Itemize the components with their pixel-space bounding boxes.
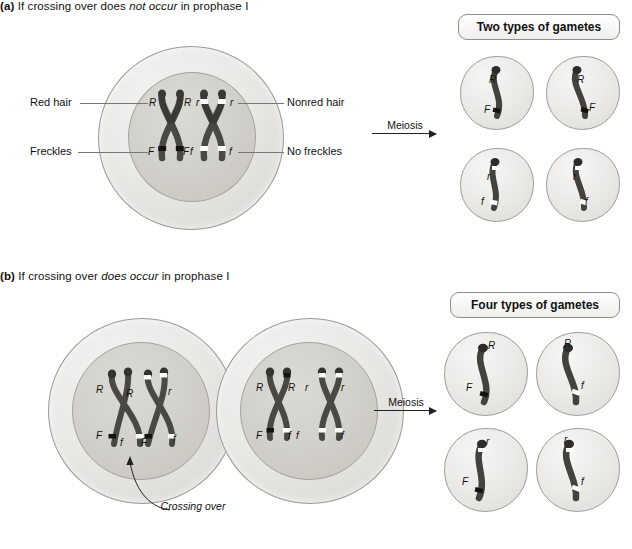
- allele-label: f: [173, 433, 176, 444]
- meiosis-arrow-a: Meiosis: [372, 119, 438, 134]
- panel-a-heading-post: in prophase I: [177, 0, 248, 12]
- panel-b-heading-emphasis: does occur: [101, 270, 158, 282]
- panel-b-heading: (b) If crossing over does occur in proph…: [0, 270, 632, 282]
- gamete-allele-top: r: [564, 434, 567, 445]
- allele-label: F: [141, 437, 147, 448]
- label-nonred-hair: Nonred hair: [287, 96, 344, 108]
- gamete-allele-top: r: [573, 171, 576, 182]
- gamete-allele-bottom: f: [581, 380, 584, 391]
- arrow-line: [372, 133, 436, 134]
- gamete-chromosome: [566, 156, 596, 214]
- allele-label: f: [296, 430, 299, 441]
- allele-label: r: [341, 382, 344, 393]
- panel-b-heading-label: (b): [0, 270, 15, 282]
- gamete-chromosome: [481, 156, 511, 214]
- allele-label: r: [196, 97, 199, 108]
- gamete-allele-top: R: [577, 74, 584, 85]
- allele-label: f: [341, 430, 344, 441]
- panel-b: (b) If crossing over does occur in proph…: [0, 270, 632, 549]
- gamete-box-b: Four types of gametes: [450, 292, 620, 318]
- gamete-chromosome: [469, 340, 503, 408]
- leader-line: [238, 103, 284, 104]
- allele-label: r: [305, 382, 308, 393]
- crossing-over-label: Crossing over: [160, 500, 226, 513]
- gamete-allele-bottom: F: [589, 102, 595, 113]
- panel-a-heading-pre: If crossing over does: [18, 0, 130, 12]
- gamete-allele-bottom: f: [481, 196, 484, 207]
- allele-label: R: [96, 384, 103, 395]
- panel-a: (a) If crossing over does not occur in p…: [0, 0, 632, 270]
- gamete-chromosome: [566, 64, 596, 122]
- arrow-head-icon: [429, 407, 437, 415]
- panel-a-heading-label: (a): [0, 0, 14, 12]
- allele-label: F: [96, 430, 102, 441]
- gamete-box-title: Two types of gametes: [477, 20, 601, 34]
- panel-b-heading-post: in prophase I: [158, 270, 229, 282]
- gamete-allele-bottom: F: [484, 104, 490, 115]
- gamete-allele-bottom: f: [585, 196, 588, 207]
- panel-a-heading: (a) If crossing over does not occur in p…: [0, 0, 632, 12]
- arrow-head-icon: [429, 130, 437, 138]
- allele-label: f: [190, 146, 193, 157]
- leader-line: [238, 152, 284, 153]
- allele-label: r: [230, 97, 233, 108]
- panel-b-heading-pre: If crossing over: [18, 270, 101, 282]
- panel-a-heading-emphasis: not occur: [129, 0, 177, 12]
- allele-label: F: [183, 146, 189, 157]
- allele-label: R: [126, 388, 133, 399]
- gamete-allele-top: R: [489, 74, 496, 85]
- allele-label: f: [288, 430, 291, 441]
- leader-line: [78, 152, 148, 153]
- label-freckles: Freckles: [30, 145, 72, 157]
- allele-label: F: [148, 146, 154, 157]
- gamete-chromosome: [556, 436, 590, 504]
- gamete-chromosome: [556, 340, 590, 408]
- gamete-allele-bottom: f: [581, 476, 584, 487]
- leader-line: [80, 103, 148, 104]
- gamete-allele-bottom: F: [462, 476, 468, 487]
- gamete-allele-top: r: [487, 171, 490, 182]
- label-red-hair: Red hair: [30, 96, 72, 108]
- gamete-allele-top: r: [486, 436, 489, 447]
- allele-label: r: [168, 386, 171, 397]
- gamete-box-a: Two types of gametes: [458, 14, 620, 40]
- gamete-box-title: Four types of gametes: [471, 298, 599, 312]
- allele-label: R: [184, 97, 191, 108]
- gamete-allele-top: R: [564, 338, 571, 349]
- arrow-line: [374, 410, 436, 411]
- allele-label: f: [229, 146, 232, 157]
- allele-label: R: [288, 382, 295, 393]
- label-no-freckles: No freckles: [287, 145, 342, 157]
- gamete-allele-top: R: [488, 340, 495, 351]
- allele-label: R: [149, 97, 156, 108]
- meiosis-arrow-b: Meiosis: [374, 396, 438, 411]
- chromosome-pair-paternal-b: [310, 362, 358, 446]
- allele-label: R: [256, 382, 263, 393]
- gamete-allele-bottom: F: [466, 382, 472, 393]
- allele-label: F: [256, 430, 262, 441]
- allele-label: f: [120, 437, 123, 448]
- gamete-chromosome: [466, 436, 500, 504]
